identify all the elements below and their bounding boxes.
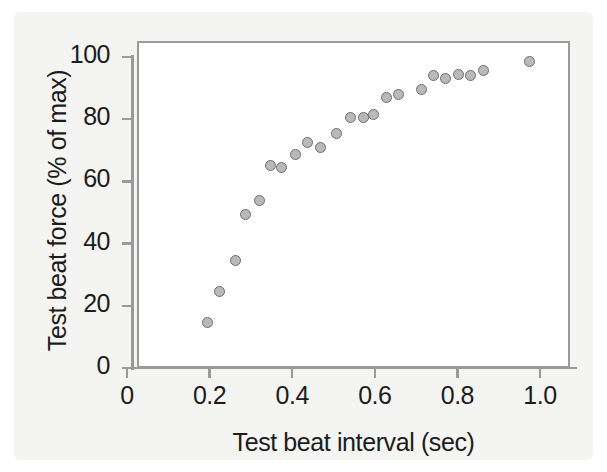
x-axis-tick-label: 0.6 <box>330 381 420 410</box>
scatter-plot-figure: 02040608010000.20.40.60.81.0 Test beat i… <box>0 0 607 472</box>
y-axis-title: Test beat force (% of max) <box>43 46 72 376</box>
plot-frame <box>137 41 570 368</box>
y-axis-line <box>131 55 134 370</box>
x-axis-tick-label: 0.2 <box>165 381 255 410</box>
x-axis-tick <box>208 368 211 378</box>
x-axis-tick <box>539 368 542 378</box>
y-axis-tick <box>122 180 132 183</box>
x-axis-line <box>127 367 577 370</box>
x-axis-tick <box>456 368 459 378</box>
y-axis-tick <box>122 242 132 245</box>
x-axis-tick-label: 0.4 <box>247 381 337 410</box>
x-axis-tick <box>374 368 377 378</box>
x-axis-tick <box>291 368 294 378</box>
y-axis-tick <box>122 305 132 308</box>
x-axis-tick <box>126 368 129 378</box>
x-axis-tick-label: 0 <box>82 381 172 410</box>
x-axis-title: Test beat interval (sec) <box>137 428 570 457</box>
x-axis-tick-label: 0.8 <box>412 381 502 410</box>
y-axis-tick <box>122 56 132 59</box>
y-axis-tick <box>122 118 132 121</box>
x-axis-tick-label: 1.0 <box>495 381 585 410</box>
